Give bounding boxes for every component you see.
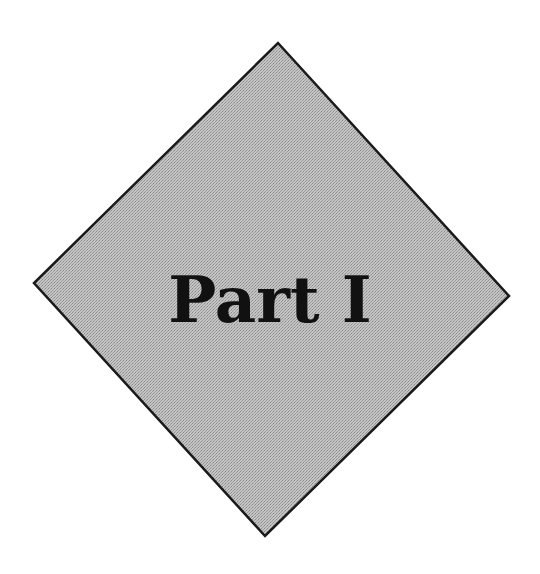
part-divider-page: Part I (0, 0, 540, 574)
part-title: Part I (0, 268, 540, 332)
